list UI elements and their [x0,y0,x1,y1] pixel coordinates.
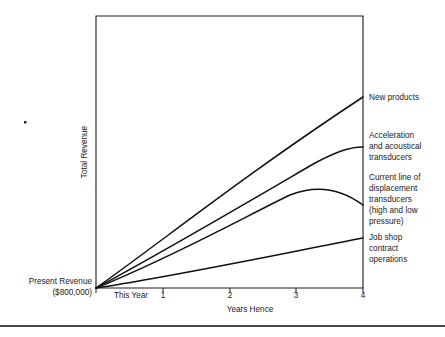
x-tick-label-2: 2 [228,291,233,300]
curve-current-line-displacement [96,189,363,288]
series-label-acceleration-line2: and acoustical [369,142,422,151]
present-revenue-label-line1: Present Revenue [29,277,93,286]
y-axis-title: Total Revenue [80,125,89,178]
revenue-projection-figure: Total Revenue Years Hence This Year 1 2 … [0,0,445,337]
series-label-current-line-4: (high and low [369,206,418,215]
series-label-new-products: New products [369,93,419,102]
curve-acceleration-acoustical [96,147,363,288]
curve-job-shop [96,238,363,288]
plot-frame [96,16,363,288]
series-label-current-line-2: displacement [369,184,418,193]
x-tick-label-4: 4 [361,291,366,300]
series-label-job-shop-2: contract [369,244,399,253]
series-label-current-line-5: pressure) [369,217,404,226]
series-label-job-shop-3: operations [369,255,407,264]
x-axis-title: Years Hence [227,305,274,314]
series-label-acceleration-line3: transducers [369,153,412,162]
series-label-current-line-1: Current line of [369,173,421,182]
page-speck [24,121,27,124]
chart-canvas: Total Revenue Years Hence This Year 1 2 … [0,0,445,337]
x-tick-label-1: 1 [161,291,166,300]
series-label-acceleration-line1: Acceleration [369,131,415,140]
series-label-current-line-3: transducers [369,195,412,204]
curve-new-products [96,97,363,288]
present-revenue-label-line2: ($800,000) [52,288,92,297]
series-label-job-shop-1: Job shop [369,233,403,242]
x-tick-label-3: 3 [294,291,299,300]
x-tick-label-this-year: This Year [114,291,148,300]
